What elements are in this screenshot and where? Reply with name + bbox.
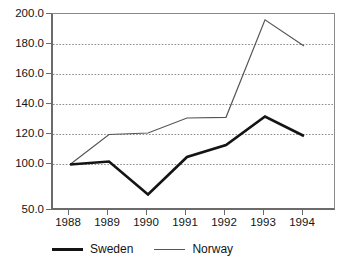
legend-swatch-norway-icon bbox=[154, 249, 185, 250]
legend-item-norway: Norway bbox=[154, 243, 233, 255]
y-axis-tick-label: 140.0 bbox=[0, 98, 44, 109]
chart-legend: Sweden Norway bbox=[52, 243, 233, 255]
legend-swatch-sweden-icon bbox=[52, 248, 83, 251]
x-axis-tick-label: 1993 bbox=[241, 216, 285, 228]
line-chart: 200.0 180.0 160.0 140.0 120.0 100.0 50.0 bbox=[0, 0, 353, 269]
x-axis-tick-label: 1988 bbox=[46, 216, 90, 228]
y-axis-tick-label: 50.0 bbox=[0, 204, 44, 215]
plot-area bbox=[51, 13, 335, 210]
x-axis-tick-label: 1992 bbox=[202, 216, 246, 228]
y-axis-tick-label: 160.0 bbox=[0, 68, 44, 79]
series-line-sweden bbox=[70, 117, 304, 195]
legend-item-sweden: Sweden bbox=[52, 243, 133, 255]
x-axis-tick-label: 1990 bbox=[124, 216, 168, 228]
y-axis-tick-label: 180.0 bbox=[0, 38, 44, 49]
legend-label-norway: Norway bbox=[192, 243, 233, 255]
y-axis-tick-label: 200.0 bbox=[0, 8, 44, 19]
x-axis-tick-label: 1991 bbox=[163, 216, 207, 228]
legend-label-sweden: Sweden bbox=[90, 243, 133, 255]
y-axis-tick-label: 120.0 bbox=[0, 128, 44, 139]
series-lines bbox=[53, 14, 337, 211]
x-axis-tick-label: 1989 bbox=[85, 216, 129, 228]
series-line-norway bbox=[70, 20, 304, 165]
y-axis-tick-label: 100.0 bbox=[0, 158, 44, 169]
x-axis-tick-label: 1994 bbox=[280, 216, 324, 228]
